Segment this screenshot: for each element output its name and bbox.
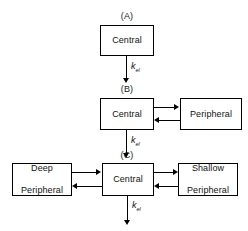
transfer-arrowhead-central-to-deep-c [72,183,77,189]
transfer-arrowhead-peripheral-to-central-b [154,117,159,123]
box-shallow-peripheral-c-line2: Peripheral [187,185,229,196]
kel-label-a: kel [131,62,140,71]
box-central-c: Central [102,163,154,196]
box-peripheral-b-label: Peripheral [190,109,232,120]
panel-label-c: (C) [101,150,153,160]
elimination-line-a [126,56,127,80]
transfer-line-central-to-peripheral-b [154,107,175,108]
box-central-a-label: Central [112,35,142,46]
box-central-c-label: Central [113,174,143,185]
kel-subscript-c: el [137,206,141,212]
panel-label-a: (A) [100,11,154,21]
box-shallow-peripheral-c-label: ShallowPeripheral [187,163,229,196]
elimination-line-c [127,196,128,222]
transfer-line-central-to-shallow-c [154,172,174,173]
compartment-model-diagram: (A) Central kel (B) Central Peripheral k… [0,0,248,231]
transfer-arrowhead-shallow-to-central-c [154,183,159,189]
kel-label-b: kel [131,136,140,145]
transfer-line-shallow-to-central-c [159,186,179,187]
transfer-arrowhead-deep-to-central-c [96,169,101,175]
panel-label-b: (B) [100,84,154,94]
kel-subscript-b: el [136,141,140,147]
elimination-arrowhead-c [124,220,130,225]
transfer-line-peripheral-to-central-b [159,120,180,121]
transfer-arrowhead-central-to-shallow-c [173,169,178,175]
box-central-b-label: Central [112,109,142,120]
box-deep-peripheral-c-line1: Deep [21,163,63,174]
box-peripheral-b: Peripheral [180,98,242,130]
box-deep-peripheral-c-line2: Peripheral [21,185,63,196]
box-deep-peripheral-c: DeepPeripheral [12,163,72,196]
box-central-a: Central [100,25,154,56]
kel-label-c: kel [132,201,141,210]
box-deep-peripheral-c-label: DeepPeripheral [21,163,63,196]
elimination-arrowhead-a [123,78,129,83]
box-central-b: Central [100,98,154,130]
transfer-line-central-to-deep-c [77,186,102,187]
kel-subscript-a: el [136,67,140,73]
box-shallow-peripheral-c-line1: Shallow [187,163,229,174]
transfer-arrowhead-central-to-peripheral-b [174,104,179,110]
transfer-line-deep-to-central-c [72,172,97,173]
box-shallow-peripheral-c: ShallowPeripheral [178,163,238,196]
